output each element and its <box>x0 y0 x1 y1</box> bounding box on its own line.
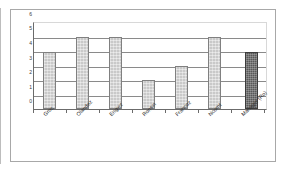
chart-frame: 0 1 2 3 4 5 6 <box>10 9 276 162</box>
y-tick-label-0: 0 <box>21 98 32 104</box>
plot-area <box>33 22 267 110</box>
x-axis-tick-labels: Groc Olandez Engiez Ronsin Francoz Ncorn… <box>33 113 283 168</box>
y-tick-label-4: 4 <box>21 40 32 46</box>
bar-0[interactable] <box>43 52 56 109</box>
y-tick-label-5: 5 <box>21 25 32 31</box>
y-tick-label-2: 2 <box>21 69 32 75</box>
y-tick-label-6: 6 <box>21 11 32 17</box>
bar-1[interactable] <box>76 37 89 109</box>
page-edge-rule <box>0 8 1 164</box>
y-tick-label-3: 3 <box>21 55 32 61</box>
y-tick-label-1: 1 <box>21 84 32 90</box>
bar-2[interactable] <box>109 37 122 109</box>
chart-screenshot: 0 1 2 3 4 5 6 <box>0 0 288 172</box>
bars-layer <box>34 23 266 109</box>
bar-5[interactable] <box>208 37 221 109</box>
y-axis-tick-labels: 0 1 2 3 4 5 6 <box>21 16 32 110</box>
